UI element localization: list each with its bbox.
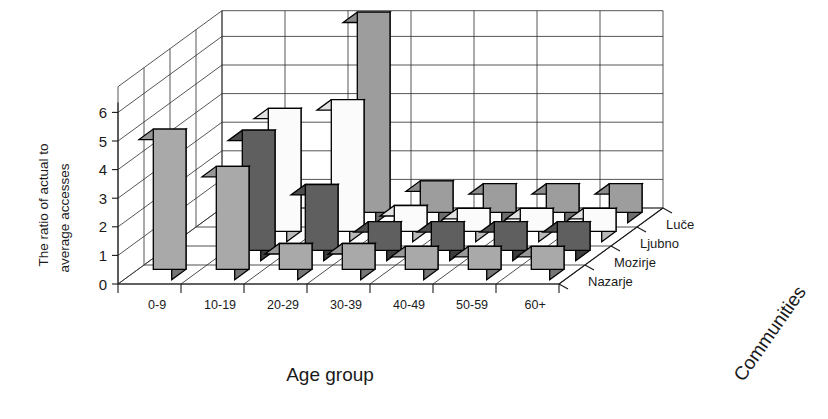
y-tick-label: 2 (99, 218, 107, 235)
bar-chart-3d: 01234560-910-1920-2930-3940-4950-5960+Lu… (0, 0, 828, 419)
bar-nazarje-0-9 (139, 129, 186, 280)
chart-figure: 01234560-910-1920-2930-3940-4950-5960+Lu… (0, 0, 828, 419)
y-axis-title-line1: The ratio of actual to (36, 143, 51, 266)
x-tick-label: 50-59 (456, 298, 488, 312)
y-tick-label: 5 (99, 133, 107, 150)
y-tick-label: 0 (99, 276, 107, 293)
y-tick-label: 1 (99, 247, 107, 264)
z-tick-label-nazarje: Nazarje (588, 274, 633, 289)
y-axis-title-line2: average accesses (57, 163, 72, 272)
z-tick-label-luce: Luče (666, 217, 694, 232)
bar-nazarje-30-39 (328, 244, 375, 280)
x-tick-label: 0-9 (148, 298, 166, 312)
bar-nazarje-10-19 (202, 166, 249, 279)
y-tick-label: 3 (99, 190, 107, 207)
bar-nazarje-20-29 (265, 244, 312, 280)
z-tick-label-ljubno: Ljubno (640, 236, 679, 251)
z-tick-label-mozirje: Mozirje (614, 255, 656, 270)
y-tick-label: 6 (99, 104, 107, 121)
x-tick-label: 60+ (524, 298, 545, 312)
x-tick-label: 10-19 (204, 298, 236, 312)
y-tick-label: 4 (99, 161, 107, 178)
x-axis-title: Age group (286, 364, 374, 385)
x-tick-label: 40-49 (393, 298, 425, 312)
z-axis-title: Communities (729, 282, 810, 385)
x-tick-label: 20-29 (267, 298, 299, 312)
x-tick-label: 30-39 (330, 298, 362, 312)
